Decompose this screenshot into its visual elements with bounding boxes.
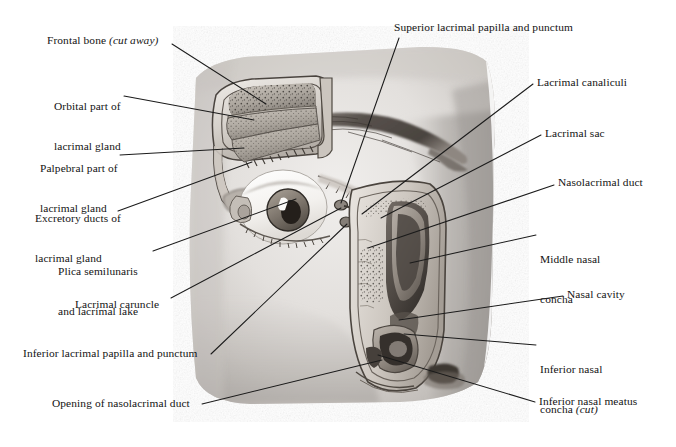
lacrimal-caruncle [238,205,250,219]
label-line: Palpebral part of [40,162,118,175]
label-line: Middle nasal [540,253,600,266]
label-superior-lacrimal-papilla: Superior lacrimal papilla and punctum [394,21,573,34]
label-inferior-nasal-concha: Inferior nasal concha (cut) [540,337,602,443]
label-lacrimal-sac: Lacrimal sac [545,127,605,140]
label-frontal-bone: Frontal bone (cut away) [47,34,158,47]
label-nasal-cavity: Nasal cavity [567,288,625,301]
nasal-cavity-cutaway [349,181,446,392]
superior-punctum [335,200,348,210]
label-plica-semilunaris: Plica semilunaris and lacrimal lake [58,239,138,345]
label-inferior-lacrimal-papilla: Inferior lacrimal papilla and punctum [23,347,198,360]
label-inferior-nasal-meatus: Inferior nasal meatus [539,395,637,408]
label-line: Orbital part of [54,100,121,113]
label-nasolacrimal-duct: Nasolacrimal duct [558,176,643,189]
label-middle-nasal-concha: Middle nasal concha [540,227,600,333]
anatomical-figure: Frontal bone (cut away) Orbital part of … [0,0,676,447]
label-line: Plica semilunaris [58,265,138,278]
label-opening-nasolacrimal-duct: Opening of nasolacrimal duct [52,397,190,410]
label-line: Excretory ducts of [35,212,121,225]
label-lacrimal-canaliculi: Lacrimal canaliculi [537,76,627,89]
label-line: Inferior nasal [540,363,602,376]
label-lacrimal-caruncle: Lacrimal caruncle [75,298,159,311]
